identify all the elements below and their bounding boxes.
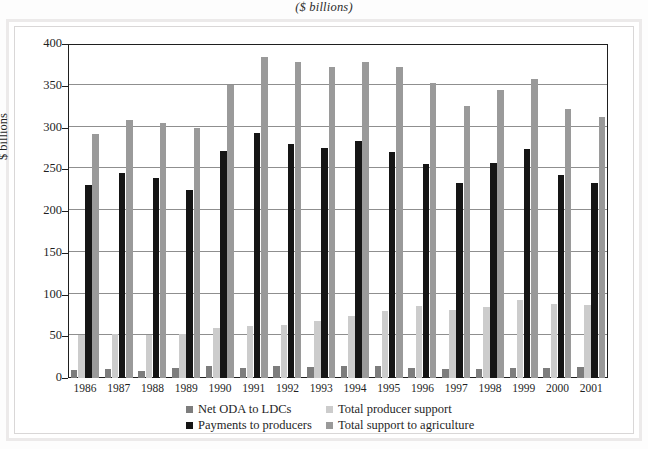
bar-group: [473, 44, 507, 378]
chart-legend: Net ODA to LDCsTotal producer supportPay…: [186, 401, 506, 433]
legend-swatch-icon: [326, 406, 333, 413]
x-tick-label: 1995: [372, 382, 406, 394]
bar: [584, 305, 591, 378]
bar: [146, 335, 153, 378]
y-tick-label: 350: [22, 78, 62, 93]
x-tick-label: 1991: [237, 382, 271, 394]
bar: [138, 371, 145, 378]
bar: [375, 366, 382, 378]
chart-figure: ($ billions) $ billions 0501001502002503…: [0, 0, 648, 449]
bar: [105, 369, 112, 378]
bar: [430, 83, 437, 378]
bar: [329, 67, 336, 378]
bar: [517, 300, 524, 378]
bar: [490, 163, 497, 378]
bar-group: [237, 44, 271, 378]
bar: [254, 133, 261, 378]
bar: [408, 368, 415, 378]
bar: [71, 370, 78, 378]
bar: [281, 325, 288, 378]
y-tick-mark: [62, 378, 68, 379]
bar: [599, 117, 606, 378]
bar: [194, 128, 201, 379]
bar: [464, 106, 471, 378]
bar-group: [439, 44, 473, 378]
bar: [510, 368, 517, 378]
legend-swatch-icon: [326, 422, 333, 429]
bar: [85, 185, 92, 378]
bar-group: [271, 44, 305, 378]
bar: [341, 366, 348, 378]
y-tick-label: 0: [22, 370, 62, 385]
bar: [382, 311, 389, 378]
x-tick-label: 1992: [271, 382, 305, 394]
bar: [558, 175, 565, 378]
y-tick-label: 250: [22, 161, 62, 176]
legend-entry: Total support to agriculture: [326, 417, 506, 433]
bar: [416, 306, 423, 378]
chart-title: ($ billions): [0, 0, 648, 15]
bar: [497, 90, 504, 378]
bar: [273, 366, 280, 378]
bar: [179, 334, 186, 378]
bar: [220, 151, 227, 378]
x-tick-label: 1988: [136, 382, 170, 394]
bar: [186, 190, 193, 378]
bar: [543, 368, 550, 378]
bar: [288, 144, 295, 378]
bar: [126, 120, 133, 378]
x-tick-label: 2001: [574, 382, 608, 394]
y-axis-label: $ billions: [0, 113, 11, 160]
legend-label: Total support to agriculture: [338, 418, 474, 433]
bar: [206, 366, 213, 378]
bar: [396, 67, 403, 378]
bar: [295, 62, 302, 378]
x-tick-label: 1996: [406, 382, 440, 394]
legend-entry: Net ODA to LDCs: [186, 401, 326, 417]
bar: [442, 369, 449, 378]
x-tick-label: 1998: [473, 382, 507, 394]
y-tick-label: 50: [22, 328, 62, 343]
bar-group: [68, 44, 102, 378]
legend-swatch-icon: [186, 422, 193, 429]
legend-label: Total producer support: [338, 402, 452, 417]
bar-group: [574, 44, 608, 378]
bar: [119, 173, 126, 378]
y-tick-label: 150: [22, 245, 62, 260]
x-tick-label: 1999: [507, 382, 541, 394]
bar: [476, 369, 483, 378]
x-tick-label: 1986: [68, 382, 102, 394]
bars-layer: [68, 44, 608, 378]
bar-group: [136, 44, 170, 378]
bar-group: [304, 44, 338, 378]
legend-label: Net ODA to LDCs: [198, 402, 291, 417]
bar: [348, 316, 355, 378]
legend-swatch-icon: [186, 406, 193, 413]
bar: [565, 109, 572, 378]
x-tick-label: 1987: [102, 382, 136, 394]
legend-entry: Total producer support: [326, 401, 506, 417]
y-tick-label: 300: [22, 120, 62, 135]
bar: [355, 141, 362, 378]
bar: [213, 328, 220, 378]
bar: [227, 85, 234, 378]
x-tick-label: 1993: [304, 382, 338, 394]
bar-group: [507, 44, 541, 378]
y-tick-label: 400: [22, 36, 62, 51]
bar: [172, 368, 179, 378]
bar: [261, 57, 268, 378]
bar: [362, 62, 369, 378]
bar: [112, 334, 119, 378]
bar-group: [338, 44, 372, 378]
bar: [240, 368, 247, 378]
x-tick-label: 1990: [203, 382, 237, 394]
y-tick-label: 200: [22, 203, 62, 218]
bar: [78, 335, 85, 378]
bar-group: [203, 44, 237, 378]
bar: [160, 123, 167, 379]
bar: [389, 152, 396, 378]
bar: [591, 183, 598, 378]
bar: [449, 310, 456, 378]
bar-group: [406, 44, 440, 378]
bar: [153, 178, 160, 378]
